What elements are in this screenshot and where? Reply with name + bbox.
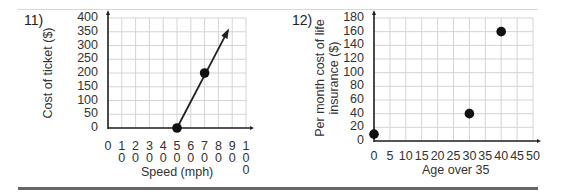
data-point [369,129,379,139]
y-axis-arrow-icon [372,10,376,15]
data-point [496,27,506,37]
bottom-divider [18,187,538,190]
x-axis-arrow-icon [537,139,541,143]
data-point [465,109,475,119]
plot-area [0,0,571,196]
